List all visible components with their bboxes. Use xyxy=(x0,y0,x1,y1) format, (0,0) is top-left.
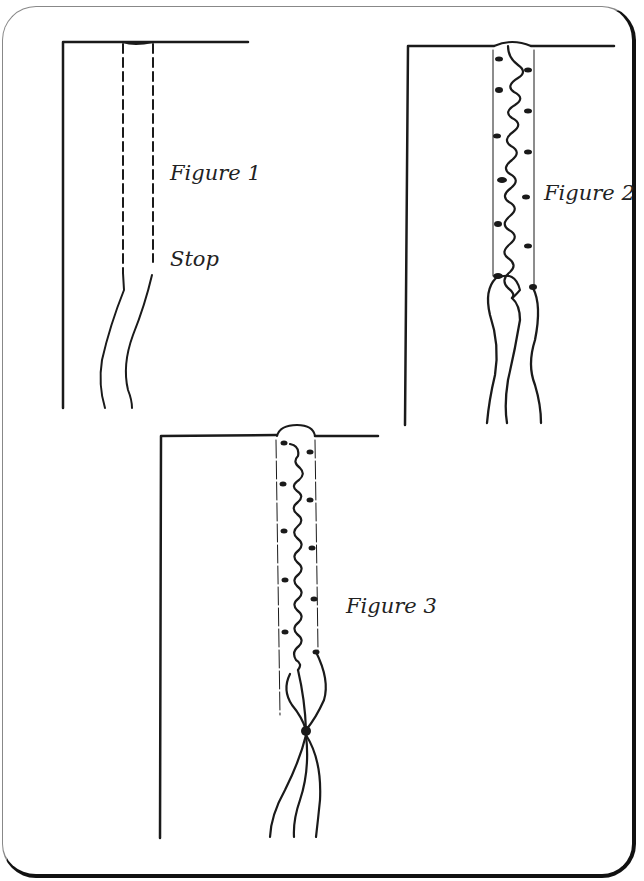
figure-2-label: Figure 2 xyxy=(543,181,635,205)
sewing-diagram: Figure 1 Stop Figure 2 xyxy=(0,0,644,881)
stop-label: Stop xyxy=(170,247,219,271)
figure-3-drawing: Figure 3 xyxy=(160,425,437,838)
figure-3-label: Figure 3 xyxy=(345,594,437,618)
figure-1-drawing: Figure 1 Stop xyxy=(63,42,261,408)
figure-2-drawing: Figure 2 xyxy=(405,42,635,425)
figure-1-label: Figure 1 xyxy=(169,161,261,185)
